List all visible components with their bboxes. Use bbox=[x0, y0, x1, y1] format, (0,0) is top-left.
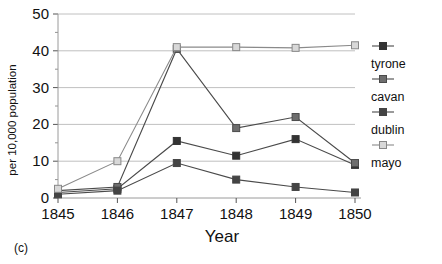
x-tick-label: 1847 bbox=[160, 205, 193, 222]
x-axis-tick-labels: 184518461847184818491850 bbox=[41, 205, 371, 222]
figure-caption: (c) bbox=[14, 241, 28, 255]
legend-label-dublin: dublin bbox=[371, 123, 404, 137]
x-axis-ticks bbox=[58, 198, 355, 203]
series-line bbox=[58, 45, 355, 189]
y-axis-tick-labels: 01020304050 bbox=[32, 5, 49, 206]
y-tick-label: 50 bbox=[32, 5, 49, 22]
data-point bbox=[380, 76, 387, 83]
y-tick-label: 20 bbox=[32, 115, 49, 132]
data-point bbox=[352, 160, 359, 167]
y-tick-label: 0 bbox=[41, 189, 49, 206]
data-point bbox=[352, 42, 359, 49]
data-point bbox=[380, 109, 387, 116]
x-tick-label: 1845 bbox=[41, 205, 74, 222]
y-axis-ticks bbox=[53, 14, 58, 198]
legend-label-tyrone: tyrone bbox=[371, 57, 406, 71]
x-tick-label: 1846 bbox=[101, 205, 134, 222]
data-point bbox=[173, 137, 180, 144]
x-tick-label: 1848 bbox=[220, 205, 253, 222]
y-tick-label: 10 bbox=[32, 152, 49, 169]
data-point bbox=[114, 158, 121, 165]
y-tick-label: 30 bbox=[32, 79, 49, 96]
legend-item-tyrone[interactable]: tyrone bbox=[371, 43, 406, 72]
gridlines bbox=[58, 14, 355, 161]
data-point bbox=[233, 176, 240, 183]
data-point bbox=[292, 183, 299, 190]
line-chart: 01020304050 184518461847184818491850 Yea… bbox=[0, 0, 442, 264]
series-line bbox=[58, 139, 355, 192]
data-point bbox=[233, 44, 240, 51]
x-tick-label: 1849 bbox=[279, 205, 312, 222]
series-dublin bbox=[55, 160, 359, 198]
data-point bbox=[173, 44, 180, 51]
data-point bbox=[292, 44, 299, 51]
data-point bbox=[55, 185, 62, 192]
data-point bbox=[173, 160, 180, 167]
legend-item-cavan[interactable]: cavan bbox=[371, 76, 404, 105]
chart-legend: tyronecavandublinmayo bbox=[371, 43, 406, 171]
chart-container: 01020304050 184518461847184818491850 Yea… bbox=[0, 0, 442, 264]
data-point bbox=[380, 43, 387, 50]
series-tyrone bbox=[55, 136, 359, 196]
series-line bbox=[58, 49, 355, 191]
data-point bbox=[292, 114, 299, 121]
data-point bbox=[380, 142, 387, 149]
series-mayo bbox=[55, 42, 359, 193]
x-tick-label: 1850 bbox=[338, 205, 371, 222]
data-point bbox=[352, 189, 359, 196]
data-point bbox=[292, 136, 299, 143]
legend-item-dublin[interactable]: dublin bbox=[371, 109, 404, 138]
x-axis-title: Year bbox=[205, 227, 240, 246]
legend-label-mayo: mayo bbox=[371, 156, 402, 170]
legend-item-mayo[interactable]: mayo bbox=[371, 142, 402, 171]
data-series-layer bbox=[55, 42, 359, 198]
data-point bbox=[233, 152, 240, 159]
legend-label-cavan: cavan bbox=[371, 90, 404, 104]
y-axis-title: per 10,000 population bbox=[6, 64, 18, 175]
data-point bbox=[233, 125, 240, 132]
data-point bbox=[114, 187, 121, 194]
y-tick-label: 40 bbox=[32, 42, 49, 59]
